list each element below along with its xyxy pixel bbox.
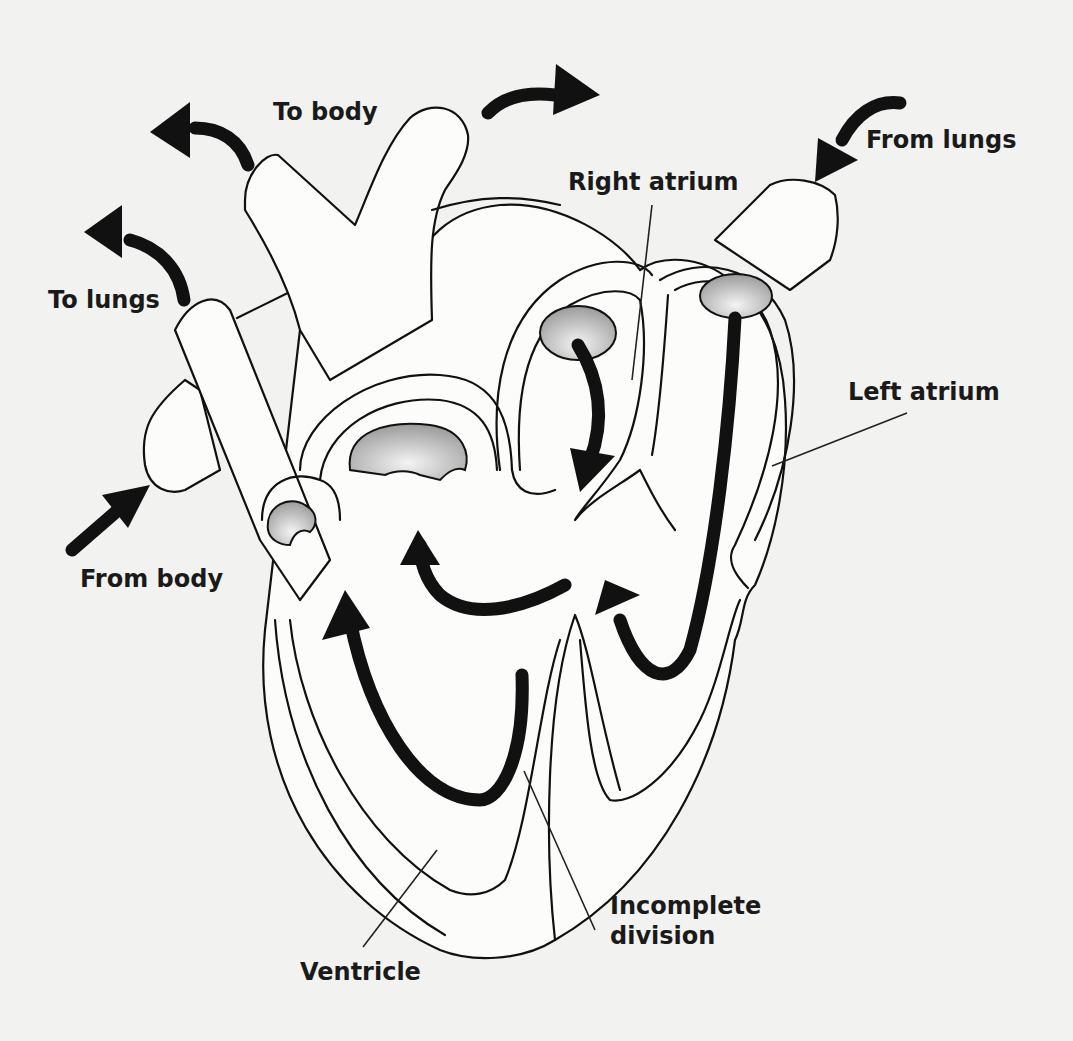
arrow-to-lungs-head (84, 205, 122, 258)
label-left-atrium: Left atrium (848, 378, 1000, 406)
label-from-lungs: From lungs (866, 126, 1016, 154)
label-incomplete: Incomplete (610, 892, 761, 920)
heart-illustration (0, 0, 1073, 1041)
label-ventricle: Ventricle (300, 958, 421, 986)
left-atrium-valve (700, 274, 772, 318)
heart-diagram: To body To lungs From lungs Right atrium… (0, 0, 1073, 1041)
arrow-to-body-right (488, 94, 555, 113)
arrow-to-body-left-head (150, 102, 190, 158)
label-right-atrium: Right atrium (568, 168, 739, 196)
arrow-from-body (72, 510, 118, 550)
arrow-from-lungs-head (815, 138, 858, 182)
label-to-body: To body (273, 98, 378, 126)
label-from-body: From body (80, 565, 223, 593)
arrow-to-body-left (195, 128, 248, 165)
label-to-lungs: To lungs (48, 286, 160, 314)
label-division: division (610, 922, 715, 950)
arrow-to-body-right-head (553, 64, 600, 115)
